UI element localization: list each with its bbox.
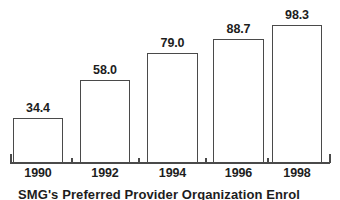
bar-1990 [13, 118, 63, 163]
x-axis-label-1998: 1998 [272, 166, 322, 181]
x-axis-tick-start [10, 154, 12, 163]
x-axis-label-1994: 1994 [147, 166, 198, 181]
plot-area: 34.4 58.0 79.0 88.7 98.3 1990 1992 1994 … [0, 0, 340, 170]
bar-value-label-1994: 79.0 [147, 36, 198, 50]
x-axis-tick-between-3-4 [205, 158, 207, 163]
bar-1996 [213, 39, 264, 163]
x-axis-tick-between-4-5 [267, 158, 269, 163]
bar-1994 [147, 53, 198, 163]
bar-value-label-1998: 98.3 [272, 8, 322, 22]
x-axis-label-1990: 1990 [13, 166, 63, 181]
bar-value-label-1990: 34.4 [13, 101, 63, 115]
bar-1998 [272, 25, 322, 163]
x-axis-label-1996: 1996 [213, 166, 264, 181]
x-axis-tick-between-2-3 [138, 158, 140, 163]
bar-value-label-1996: 88.7 [213, 22, 264, 36]
x-axis-line [10, 162, 330, 164]
bar-1992 [80, 80, 130, 163]
x-axis-tick-between-1-2 [71, 158, 73, 163]
chart-caption: SMG's Preferred Provider Organization En… [18, 187, 300, 200]
bar-chart-screenshot: 34.4 58.0 79.0 88.7 98.3 1990 1992 1994 … [0, 0, 340, 200]
bar-value-label-1992: 58.0 [80, 63, 130, 77]
x-axis-label-1992: 1992 [80, 166, 130, 181]
x-axis-tick-end [329, 154, 331, 163]
